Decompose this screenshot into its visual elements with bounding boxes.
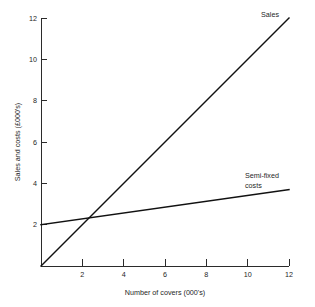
y-tick-label-6: 6 <box>33 138 37 147</box>
series-line-sales <box>41 18 289 266</box>
line-chart: 2 4 6 8 10 12 2 4 6 8 10 12 <box>0 0 315 307</box>
x-tick-label-4: 4 <box>122 270 126 279</box>
x-tick-label-10: 10 <box>244 270 252 279</box>
x-tick-label-2: 2 <box>80 270 84 279</box>
series-label-semi-fixed-costs-line2: costs <box>245 181 262 190</box>
y-axis-title: Sales and costs (£000's) <box>13 103 22 181</box>
series-line-semi-fixed-costs <box>41 190 289 225</box>
x-tick-label-6: 6 <box>163 270 167 279</box>
y-tick-label-2: 2 <box>33 220 37 229</box>
series-label-semi-fixed-costs-line1: Semi-fixed <box>245 171 279 180</box>
x-axis-title: Number of covers (000's) <box>125 288 205 297</box>
series-label-sales: Sales <box>261 10 279 19</box>
x-axis-ticks <box>82 259 289 266</box>
y-tick-label-4: 4 <box>33 179 37 188</box>
x-tick-label-8: 8 <box>204 270 208 279</box>
y-axis-ticks <box>41 18 47 225</box>
y-tick-label-8: 8 <box>33 96 37 105</box>
y-tick-label-10: 10 <box>29 55 37 64</box>
x-axis-tick-labels: 2 4 6 8 10 12 <box>80 270 293 279</box>
chart-container: 2 4 6 8 10 12 2 4 6 8 10 12 <box>0 0 315 307</box>
x-tick-label-12: 12 <box>285 270 293 279</box>
y-tick-label-12: 12 <box>29 14 37 23</box>
y-axis-tick-labels: 2 4 6 8 10 12 <box>29 14 37 230</box>
